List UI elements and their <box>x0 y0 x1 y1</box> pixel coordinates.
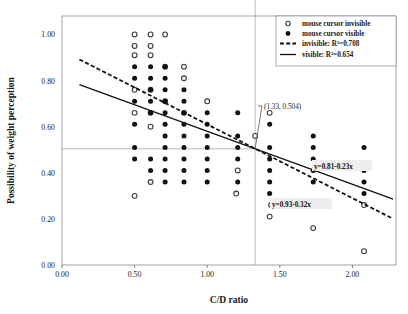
data-point-open <box>311 226 316 231</box>
legend-label-mouse-cursor-invisible: mouse cursor invisible <box>302 20 371 28</box>
data-point-filled <box>267 122 272 127</box>
data-point-filled <box>267 168 272 173</box>
data-point-filled <box>148 99 153 104</box>
data-point-filled <box>205 168 210 173</box>
data-point-filled <box>181 180 186 185</box>
legend-label-mouse-cursor-visible: mouse cursor visible <box>302 30 365 38</box>
data-point-open <box>132 87 137 92</box>
data-point-open <box>234 191 239 196</box>
data-point-filled <box>267 156 272 161</box>
data-point-filled <box>181 156 186 161</box>
data-point-filled <box>148 168 153 173</box>
legend-label-visible-fit: visible: R²=0.654 <box>302 51 354 59</box>
data-point-filled <box>311 133 316 138</box>
data-point-open <box>267 214 272 219</box>
data-point-filled <box>132 145 137 150</box>
data-point-filled <box>235 156 240 161</box>
data-point-open <box>148 180 153 185</box>
x-tick-label: 0.00 <box>55 270 69 279</box>
data-point-filled <box>163 168 168 173</box>
y-tick-label: 0.80 <box>41 77 55 86</box>
x-axis-title: C/D ratio <box>210 295 249 305</box>
data-point-filled <box>235 180 240 185</box>
legend: mouse cursor invisiblemouse cursor visib… <box>276 16 396 66</box>
data-point-open <box>148 32 153 37</box>
data-point-filled <box>132 64 137 69</box>
data-point-open <box>132 110 137 115</box>
data-point-filled <box>163 156 168 161</box>
data-point-filled <box>181 99 186 104</box>
data-point-filled <box>311 145 316 150</box>
data-point-filled <box>148 156 153 161</box>
data-point-filled <box>163 76 168 81</box>
data-point-filled <box>205 145 210 150</box>
data-point-filled <box>163 122 168 127</box>
data-point-filled <box>163 110 168 115</box>
data-point-filled <box>235 145 240 150</box>
annotation-intersection: (1.33, 0.504) <box>264 103 302 111</box>
data-point-filled <box>148 87 153 92</box>
data-point-filled <box>163 64 168 69</box>
data-point-filled <box>181 87 186 92</box>
y-axis-title: Possibility of weight perception <box>6 76 16 203</box>
data-point-filled <box>132 122 137 127</box>
data-point-filled <box>181 145 186 150</box>
data-point-filled <box>205 110 210 115</box>
data-point-filled <box>205 180 210 185</box>
data-point-filled <box>267 191 272 196</box>
data-point-open <box>182 76 187 81</box>
x-tick-label: 1.50 <box>273 270 287 279</box>
x-tick-label: 1.00 <box>200 270 214 279</box>
data-point-filled <box>163 87 168 92</box>
data-point-open <box>148 44 153 49</box>
data-point-filled <box>148 64 153 69</box>
data-point-open <box>267 110 272 115</box>
legend-marker-filled-circle <box>286 31 291 36</box>
data-point-open <box>132 44 137 49</box>
data-point-filled <box>362 145 367 150</box>
y-tick-label: 0.20 <box>41 215 55 224</box>
data-point-open <box>205 99 210 104</box>
data-point-filled <box>235 133 240 138</box>
chart-figure: 0.000.501.001.502.000.000.200.400.600.80… <box>0 0 408 314</box>
data-point-filled <box>181 133 186 138</box>
data-point-open <box>362 249 367 254</box>
data-point-filled <box>267 145 272 150</box>
data-point-open <box>235 168 240 173</box>
data-point-filled <box>205 133 210 138</box>
data-point-open <box>148 124 153 129</box>
data-point-filled <box>163 145 168 150</box>
y-tick-label: 1.00 <box>41 30 55 39</box>
data-point-filled <box>311 180 316 185</box>
data-point-filled <box>362 191 367 196</box>
equation-label-visible: y=0.81-0.23x <box>314 163 353 171</box>
data-point-open <box>132 193 137 198</box>
data-point-filled <box>132 99 137 104</box>
data-point-open <box>182 64 187 69</box>
legend-marker-open-circle <box>286 21 290 25</box>
y-tick-label: 0.40 <box>41 169 55 178</box>
y-tick-label: 0.60 <box>41 123 55 132</box>
data-point-filled <box>205 156 210 161</box>
x-tick-label: 0.50 <box>128 270 142 279</box>
data-point-filled <box>181 168 186 173</box>
data-point-filled <box>163 133 168 138</box>
data-point-open <box>148 53 153 58</box>
y-tick-label: 0.00 <box>41 261 55 270</box>
x-tick-label: 2.00 <box>346 270 360 279</box>
data-point-filled <box>362 180 367 185</box>
scatter-plot: 0.000.501.001.502.000.000.200.400.600.80… <box>0 0 408 314</box>
data-point-filled <box>132 156 137 161</box>
data-point-filled <box>132 76 137 81</box>
data-point-filled <box>163 180 168 185</box>
data-point-filled <box>267 180 272 185</box>
legend-label-invisible-fit: invisible: R²=0.708 <box>302 40 360 48</box>
data-point-filled <box>235 110 240 115</box>
data-point-open <box>163 32 168 37</box>
data-point-open <box>132 53 137 58</box>
data-point-filled <box>148 76 153 81</box>
equation-label-invisible: y=0.93-0.32x <box>272 201 311 209</box>
data-point-open <box>132 32 137 37</box>
